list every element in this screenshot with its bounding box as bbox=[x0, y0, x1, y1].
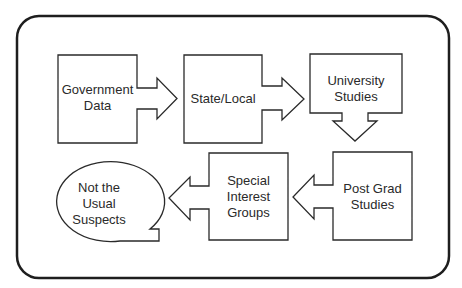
node-label-university-studies: University Studies bbox=[310, 73, 402, 105]
node-label-state-local: State/Local bbox=[184, 91, 262, 107]
node-label-line: Government bbox=[58, 82, 137, 98]
node-label-line: Studies bbox=[310, 89, 402, 105]
node-label-line: Usual bbox=[62, 196, 136, 212]
node-label-line: Groups bbox=[209, 205, 288, 221]
flow-diagram bbox=[0, 0, 462, 288]
node-label-line: Data bbox=[58, 98, 137, 114]
node-label-line: Studies bbox=[333, 197, 412, 213]
node-label-line: Suspects bbox=[62, 212, 136, 228]
node-label-line: Not the bbox=[62, 180, 136, 196]
node-label-line: Special bbox=[209, 173, 288, 189]
node-label-line: University bbox=[310, 73, 402, 89]
node-label-line: Post Grad bbox=[333, 181, 412, 197]
node-label-special-interest-groups: Special Interest Groups bbox=[209, 173, 288, 221]
node-label-not-the-usual-suspects: Not the Usual Suspects bbox=[62, 180, 136, 228]
node-label-line: Interest bbox=[209, 189, 288, 205]
node-label-government-data: Government Data bbox=[58, 82, 137, 114]
node-label-post-grad-studies: Post Grad Studies bbox=[333, 181, 412, 213]
node-label-line: State/Local bbox=[184, 91, 262, 107]
